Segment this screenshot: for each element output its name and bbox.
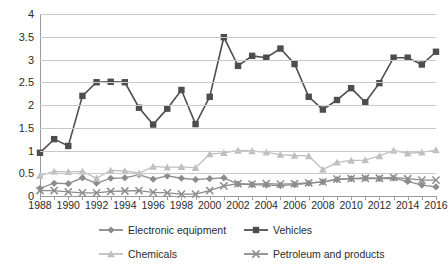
data-point [107,175,114,182]
x-tick-label: 2000 [198,199,221,211]
legend-item-vehicles[interactable]: Vehicles [243,224,312,236]
x-tick-label: 1990 [57,199,80,211]
y-axis-labels: 00.511.522.533.54 [0,0,38,215]
x-tick-label: 2006 [283,199,306,211]
y-tick-label: 1 [28,145,34,157]
x-tick [408,196,409,200]
x-axis-labels: 1988199019921994199619982000200220042006… [40,199,436,217]
legend-label: Petroleum and products [273,248,384,260]
legend-label: Chemicals [128,248,177,260]
data-point [291,61,297,67]
cross-marker-icon [243,248,269,260]
data-point [79,93,85,99]
x-tick-label: 2008 [311,199,334,211]
x-tick [82,196,83,200]
data-point [93,174,101,181]
x-tick-label: 1994 [113,199,136,211]
data-point [320,106,326,112]
gridline [40,128,436,129]
data-point [192,121,198,127]
data-point [65,143,71,149]
data-point [207,94,213,100]
data-point [79,174,86,181]
data-point [206,175,213,182]
data-point [150,176,157,183]
y-tick-label: 0.5 [19,167,34,179]
data-point [164,105,170,111]
gridline [40,151,436,152]
square-marker-icon [243,224,269,236]
x-tick-label: 2016 [424,199,447,211]
data-point [220,174,227,181]
x-tick [252,196,253,200]
x-tick-label: 2014 [396,199,419,211]
data-point [419,61,425,67]
legend-item-chemicals[interactable]: Chemicals [98,248,177,260]
gridline [40,82,436,83]
data-point [121,174,128,181]
x-tick [167,196,168,200]
legend-item-electronic-equipment[interactable]: Electronic equipment [98,224,226,236]
x-tick [153,196,154,200]
x-tick [422,196,423,200]
y-tick-label: 3 [28,54,34,66]
plot-wrapper: 00.511.522.533.54 1988199019921994199619… [0,0,445,215]
data-point [432,183,439,190]
data-point [263,181,270,188]
x-tick [181,196,182,200]
data-point [306,94,312,100]
data-point [376,152,384,159]
series-line [40,37,436,153]
data-point [433,49,439,55]
x-tick [54,196,55,200]
y-tick-label: 4 [28,8,34,20]
series-vehicles [37,34,439,156]
x-tick [196,196,197,200]
x-tick [266,196,267,200]
data-point [277,182,284,189]
x-tick-label: 2010 [339,199,362,211]
x-tick [309,196,310,200]
data-point [192,176,199,183]
x-tick-label: 2002 [226,199,249,211]
data-point [51,136,57,142]
x-tick-label: 1992 [85,199,108,211]
x-tick-label: 2004 [255,199,278,211]
data-point [334,97,340,103]
data-point [249,53,255,59]
data-point [277,45,283,51]
x-tick [111,196,112,200]
data-point [65,180,72,187]
diamond-marker-icon [98,224,124,236]
data-point [348,85,354,91]
data-point [51,180,58,187]
y-tick-label: 3.5 [19,31,34,43]
x-tick-label: 1996 [141,199,164,211]
gridline [40,14,436,15]
x-tick [125,196,126,200]
legend-item-petroleum-and-products[interactable]: Petroleum and products [243,248,384,260]
legend-label: Electronic equipment [128,224,226,236]
x-tick [280,196,281,200]
x-tick-label: 1998 [170,199,193,211]
legend-label: Vehicles [273,224,312,236]
legend-row-2: Chemicals Petroleum and products [0,248,445,272]
x-tick [139,196,140,200]
x-tick [238,196,239,200]
y-tick-label: 1.5 [19,122,34,134]
x-tick [379,196,380,200]
x-tick [97,196,98,200]
x-tick [40,196,41,200]
y-tick-label: 2.5 [19,76,34,88]
gridline [40,60,436,61]
x-tick [68,196,69,200]
data-point [178,175,185,182]
x-tick-label: 2012 [368,199,391,211]
x-tick [295,196,296,200]
x-tick [351,196,352,200]
data-point [235,63,241,69]
x-tick [365,196,366,200]
triangle-marker-icon [98,248,124,260]
chart-legend: Electronic equipment Vehicles Chemicals … [0,222,445,280]
